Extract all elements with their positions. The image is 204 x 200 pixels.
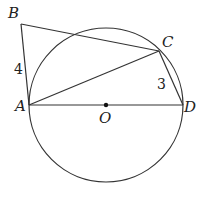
label-d: D: [183, 98, 196, 116]
length-label-ab: 4: [14, 61, 23, 77]
length-label-cd: 3: [157, 76, 166, 92]
geometry-diagram: A B C D O 4 3: [0, 0, 204, 200]
label-o: O: [99, 109, 111, 127]
segment-ac: [29, 51, 159, 105]
center-point-o: [104, 103, 108, 107]
segment-bc: [21, 24, 159, 51]
label-c: C: [162, 33, 174, 51]
label-b: B: [7, 4, 19, 22]
label-a: A: [13, 97, 26, 115]
